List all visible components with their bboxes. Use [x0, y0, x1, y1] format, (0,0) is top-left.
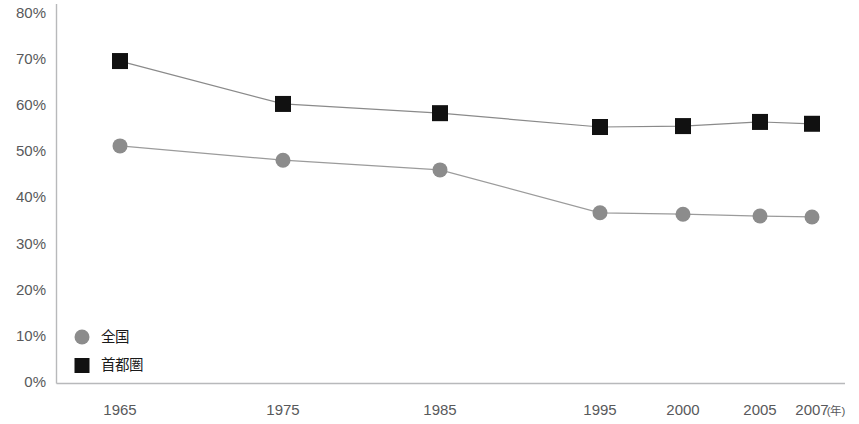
- series-zenkoku: [113, 138, 820, 224]
- x-tick-label: 1975: [266, 401, 299, 418]
- data-point-circle: [113, 138, 128, 153]
- y-tick-label: 60%: [16, 96, 46, 113]
- y-tick-label: 80%: [16, 4, 46, 21]
- chart-canvas: 80% 70% 60% 50% 40% 30% 20% 10% 0% 1965 …: [0, 0, 859, 424]
- data-point-circle: [593, 205, 608, 220]
- x-tick-label: 1985: [423, 401, 456, 418]
- series-line: [120, 61, 812, 127]
- series-layer: [112, 53, 820, 224]
- data-point-circle: [676, 207, 691, 222]
- data-point-square: [432, 105, 448, 121]
- y-tick-label: 10%: [16, 327, 46, 344]
- legend-item-label-shutoken: 首都圏: [101, 357, 143, 373]
- x-axis-unit-label: (年): [827, 404, 846, 417]
- data-point-square: [275, 96, 291, 112]
- data-point-square: [804, 116, 820, 132]
- series-shutoken: [112, 53, 820, 135]
- x-tick-label: 1995: [583, 401, 616, 418]
- data-point-square: [112, 53, 128, 69]
- y-tick-label: 70%: [16, 50, 46, 67]
- data-point-circle: [433, 162, 448, 177]
- x-tick-label: 2000: [666, 401, 699, 418]
- chart-legend: 全国 首都圏: [75, 328, 144, 373]
- circle-marker-icon: [75, 330, 90, 345]
- data-point-square: [752, 114, 768, 130]
- data-point-circle: [276, 153, 291, 168]
- y-tick-label: 50%: [16, 142, 46, 159]
- x-tick-label: 2005: [743, 401, 776, 418]
- series-line: [120, 146, 812, 217]
- y-tick-label: 40%: [16, 188, 46, 205]
- y-tick-label: 30%: [16, 235, 46, 252]
- x-axis-tick-labels: 1965 1975 1985 1995 2000 2005 2007 (年): [103, 401, 845, 418]
- data-point-circle: [805, 209, 820, 224]
- legend-item-label-zenkoku: 全国: [101, 328, 129, 345]
- square-marker-icon: [75, 358, 90, 373]
- x-tick-label: 2007: [795, 401, 828, 418]
- data-point-square: [675, 118, 691, 134]
- line-chart: 80% 70% 60% 50% 40% 30% 20% 10% 0% 1965 …: [0, 0, 859, 424]
- y-tick-label: 0%: [24, 373, 46, 390]
- y-tick-label: 20%: [16, 281, 46, 298]
- x-tick-label: 1965: [103, 401, 136, 418]
- data-point-circle: [753, 209, 768, 224]
- y-axis-tick-labels: 80% 70% 60% 50% 40% 30% 20% 10% 0%: [16, 4, 46, 390]
- data-point-square: [592, 119, 608, 135]
